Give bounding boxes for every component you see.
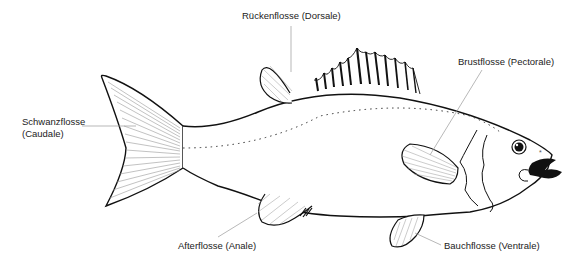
label-dorsal-fin: Rückenflosse (Dorsale) [242, 10, 341, 22]
dorsal-fin-spiny [314, 48, 420, 94]
fish-diagram: * [0, 0, 583, 270]
label-ventral-fin: Bauchflosse (Ventrale) [444, 240, 540, 252]
fish-body: * [183, 94, 562, 217]
label-caudal-line1: Schwanzflosse [22, 116, 85, 128]
label-caudal-fin: Schwanzflosse (Caudale) [22, 116, 85, 140]
ventral-fin [390, 215, 424, 247]
label-anal-fin: Afterflosse (Anale) [178, 240, 256, 252]
label-caudal-line2: (Caudale) [22, 128, 85, 140]
label-pectoral-fin: Brustflosse (Pectorale) [458, 56, 554, 68]
dorsal-fin-soft [260, 66, 292, 103]
svg-text:*: * [539, 149, 542, 156]
caudal-fin [102, 75, 184, 206]
